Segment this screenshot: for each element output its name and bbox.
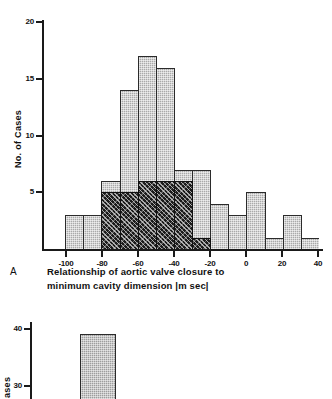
panel-a-y-tick-15: [36, 78, 42, 80]
panel-a-x-tick--20: [209, 251, 211, 257]
histogram-bar: [210, 204, 229, 249]
histogram-bar: [138, 181, 157, 249]
panel-a-y-tick-label-5: 5: [14, 187, 34, 196]
panel-a-y-tick-20: [36, 21, 42, 23]
panel-a-x-tick-label-0: 0: [244, 259, 248, 268]
histogram-bar: [101, 192, 120, 249]
histogram-bar: [246, 192, 265, 249]
histogram-bar: [83, 215, 102, 249]
panel-a-x-tick-0: [245, 251, 247, 257]
histogram-bar: [174, 181, 193, 249]
panel-b-y-tick-label-30: 30: [2, 381, 22, 390]
panel-a-y-tick-5: [36, 191, 42, 193]
panel-a-y-tick-label-20: 20: [14, 17, 34, 26]
panel-a-y-tick-10: [36, 135, 42, 137]
panel-a-x-tick--40: [173, 251, 175, 257]
panel-a-y-axis-line: [42, 20, 44, 250]
panel-a-x-tick-label-40: 40: [314, 259, 323, 268]
panel-b-y-tick-label-40: 40: [2, 324, 22, 333]
histogram-bar: [301, 238, 319, 249]
panel-b-y-tick-40: [24, 328, 30, 330]
histogram-bar: [120, 192, 139, 249]
histogram-bar: [65, 215, 84, 249]
panel-a-plot-area: [47, 11, 319, 249]
histogram-bar: [80, 334, 116, 399]
histogram-bar: [192, 238, 211, 249]
histogram-bar: [283, 215, 302, 249]
panel-a-letter: A: [10, 266, 17, 277]
histogram-bar: [156, 181, 175, 249]
panel-a-x-tick--60: [137, 251, 139, 257]
panel-a-x-tick--100: [65, 251, 67, 257]
panel-a-caption-line-2: minimum cavity dimension |m sec|: [47, 279, 209, 293]
panel-a-y-tick-label-15: 15: [14, 74, 34, 83]
panel-a-x-tick--80: [101, 251, 103, 257]
panel-b-y-tick-30: [24, 385, 30, 387]
histogram-bar: [265, 238, 284, 249]
panel-a-caption-line-1: Relationship of aortic valve closure to: [47, 265, 224, 279]
panel-b-plot-area: [32, 322, 322, 399]
panel-a-y-tick-label-10: 10: [14, 131, 34, 140]
panel-a-x-tick-40: [317, 251, 319, 257]
panel-a-x-tick-label-20: 20: [278, 259, 287, 268]
panel-a-x-tick-20: [281, 251, 283, 257]
histogram-bar: [228, 215, 247, 249]
